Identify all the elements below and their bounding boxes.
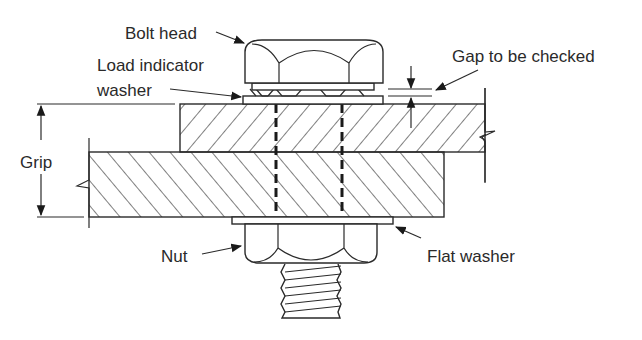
load-indicator-washer (243, 89, 383, 104)
gap-leader (436, 70, 478, 90)
load-indicator-leader (170, 89, 241, 97)
label-grip: Grip (20, 153, 52, 172)
bolt-head (245, 40, 383, 90)
label-load-indicator-line2: washer (96, 81, 152, 100)
bolted-joint-diagram: Bolt head Load indicator washer Gap to b… (0, 0, 642, 340)
nut-leader (202, 246, 241, 254)
flat-washer (232, 217, 393, 224)
bolt-threaded-end (281, 264, 341, 318)
flat-washer-leader (396, 227, 421, 238)
label-flat-washer: Flat washer (427, 247, 515, 266)
nut (245, 224, 377, 263)
bottom-plate (77, 138, 444, 228)
label-load-indicator-line1: Load indicator (97, 56, 204, 75)
label-nut: Nut (161, 247, 188, 266)
label-gap: Gap to be checked (452, 47, 595, 66)
label-bolt-head: Bolt head (125, 24, 197, 43)
bolt-head-leader (216, 32, 244, 43)
